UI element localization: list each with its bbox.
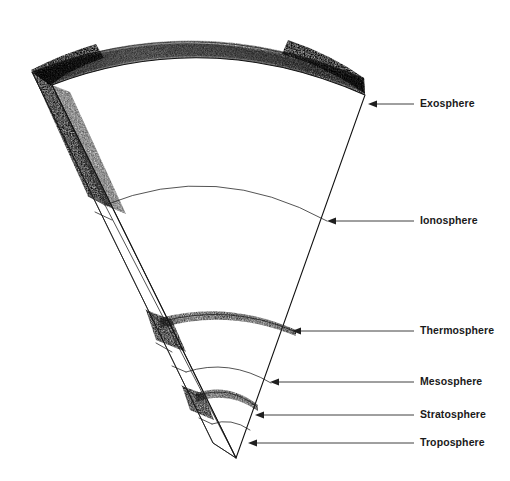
label-stratosphere: Stratosphere [420, 408, 486, 420]
callout-mesosphere[interactable]: Mesosphere [270, 375, 482, 387]
callout-thermosphere[interactable]: Thermosphere [292, 324, 494, 336]
callout-troposphere[interactable]: Troposphere [248, 436, 485, 448]
arrow-head-exosphere [368, 101, 377, 108]
label-exosphere: Exosphere [420, 97, 475, 109]
callout-exosphere[interactable]: Exosphere [368, 97, 475, 109]
atmosphere-wedge-illustration: Exosphere Ionosphere Thermosphere Mesosp… [0, 0, 510, 481]
callout-stratosphere[interactable]: Stratosphere [255, 408, 486, 420]
arrow-head-ionosphere [327, 218, 336, 225]
label-ionosphere: Ionosphere [420, 214, 478, 226]
label-mesosphere: Mesosphere [420, 375, 482, 387]
label-troposphere: Troposphere [420, 436, 485, 448]
atmosphere-diagram-figure: Exosphere Ionosphere Thermosphere Mesosp… [0, 0, 510, 481]
arrow-head-stratosphere [255, 412, 264, 419]
label-thermosphere: Thermosphere [420, 324, 494, 336]
arrow-head-mesosphere [270, 379, 279, 386]
callout-ionosphere[interactable]: Ionosphere [327, 214, 478, 226]
arrow-head-troposphere [248, 440, 257, 447]
